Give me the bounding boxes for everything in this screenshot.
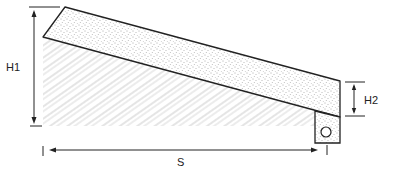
s-dimension [43, 145, 327, 156]
h2-label: H2 [364, 94, 378, 106]
diagram-canvas: H1 H2 S [0, 0, 394, 173]
arrow-up-icon [352, 84, 356, 90]
drain-pipe [321, 127, 331, 137]
h2-dimension [345, 82, 365, 116]
arrow-up-icon [32, 10, 37, 17]
arrow-down-icon [352, 108, 356, 114]
arrow-left-icon [49, 148, 56, 153]
arrow-right-icon [311, 148, 318, 153]
h1-label: H1 [6, 61, 20, 73]
arrow-down-icon [32, 117, 37, 124]
s-label: S [177, 156, 184, 168]
